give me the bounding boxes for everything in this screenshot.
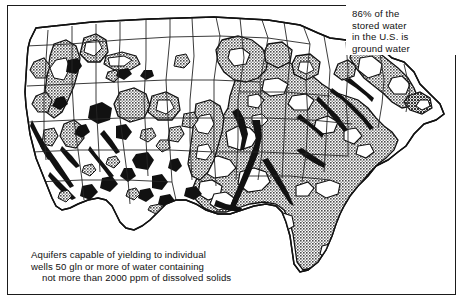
stat-line-3: in the U.S. is <box>352 31 456 43</box>
ground-water-stat-note: 86% of the stored water in the U.S. is g… <box>352 8 456 54</box>
stat-line-4: ground water <box>352 43 456 55</box>
aquifer-caption: Aquifers capable of yielding to individu… <box>31 249 261 284</box>
caption-line-2: wells 50 gln or more of water containing <box>31 261 261 273</box>
stat-line-1: 86% of the <box>352 8 456 20</box>
aquifer-map-figure: 86% of the stored water in the U.S. is g… <box>0 0 465 302</box>
stat-line-2: stored water <box>352 20 456 32</box>
caption-line-3: not more than 2000 ppm of dissolved soli… <box>31 272 261 284</box>
caption-line-1: Aquifers capable of yielding to individu… <box>31 249 261 261</box>
